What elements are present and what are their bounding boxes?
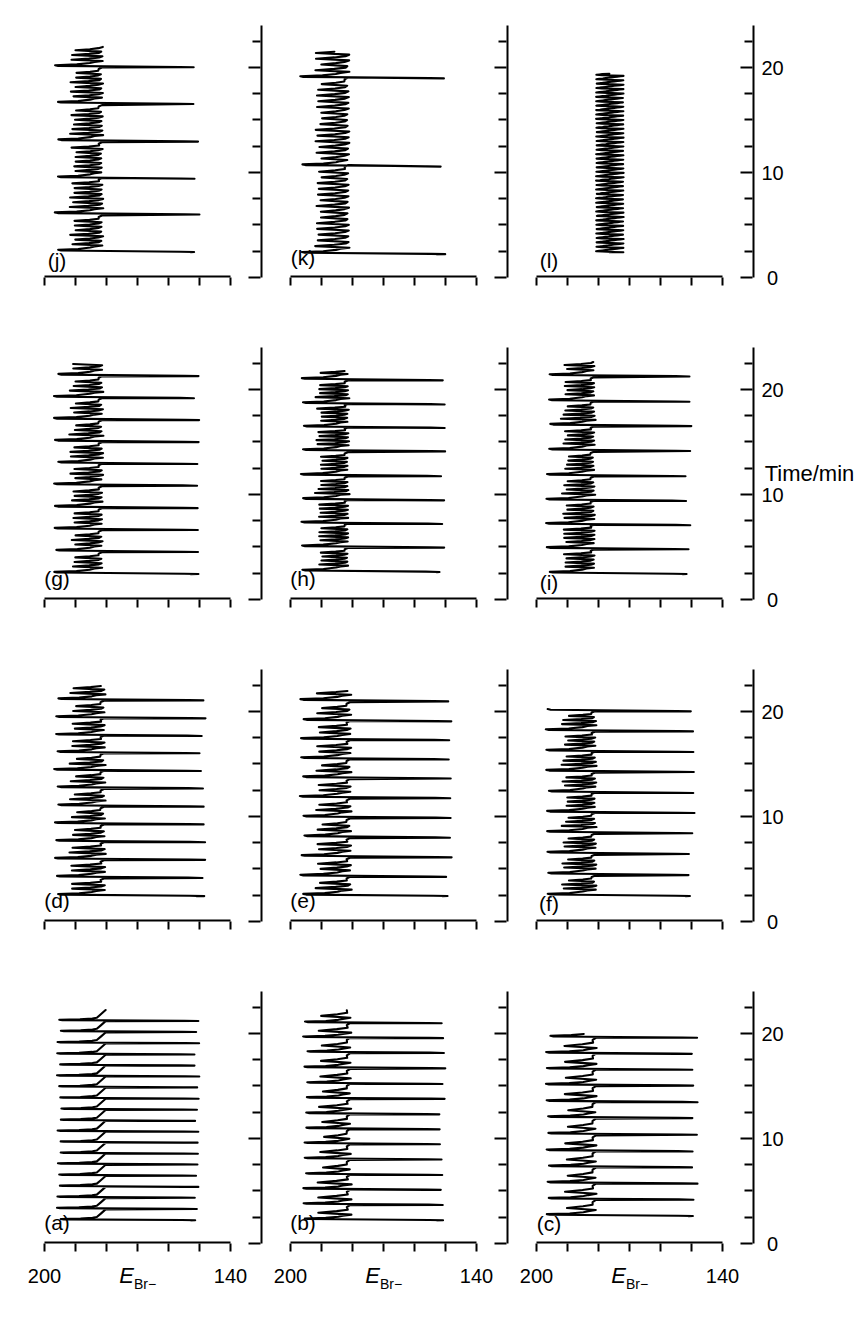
panel-f-label: (f) (539, 893, 559, 914)
panel-k-y-tick (382, 277, 384, 285)
panel-a-x-tick (248, 1032, 260, 1034)
panel-d-x-tick (252, 736, 260, 738)
panel-b-y-tick (475, 1243, 477, 1251)
panel-e-x-axis-line (506, 669, 508, 921)
y-axis-title-main: E (611, 1263, 626, 1288)
panel-h-x-tick (498, 414, 506, 416)
panel-b-x-tick (498, 1216, 506, 1218)
panel-j-x-tick (252, 119, 260, 121)
panel-d-x-tick (252, 868, 260, 870)
panel-e-y-tick (444, 921, 446, 929)
x-tick-label: 0 (752, 1233, 792, 1253)
panel-i-y-tick (721, 599, 723, 607)
panel-d-y-tick (43, 921, 45, 929)
panel-l-x-tick (744, 197, 752, 199)
panel-a-y-tick (167, 1243, 169, 1251)
panel-g-y-tick (136, 599, 138, 607)
panel-i-x-tick (744, 546, 752, 548)
panel-f-y-tick (566, 921, 568, 929)
panel-d-x-tick (252, 894, 260, 896)
panel-c: (c) (536, 991, 722, 1243)
panel-f-y-tick (690, 921, 692, 929)
panel-a-x-tick (252, 1085, 260, 1087)
panel-b-x-axis-line (506, 991, 508, 1243)
panel-g-trace (44, 347, 230, 599)
panel-k-x-tick (494, 66, 506, 68)
panel-f-y-tick (628, 921, 630, 929)
panel-h-x-tick (498, 467, 506, 469)
panel-c-x-tick (744, 1190, 752, 1192)
panel-c-y-tick (628, 1243, 630, 1251)
panel-j-x-tick (252, 145, 260, 147)
panel-g-y-tick (105, 599, 107, 607)
panel-k-y-tick (475, 277, 477, 285)
panel-a-y-tick (74, 1243, 76, 1251)
panel-l-y-tick (659, 277, 661, 285)
panel-j-x-tick (252, 197, 260, 199)
panel-c-y-tick (721, 1243, 723, 1251)
panel-e-y-tick (320, 921, 322, 929)
panel-d-y-tick (229, 921, 231, 929)
panel-l-x-tick (740, 66, 752, 68)
x-tick-label: 0 (752, 911, 792, 931)
panel-l-x-tick (744, 224, 752, 226)
panel-h-y-tick (289, 599, 291, 607)
panel-b-x-tick (494, 1032, 506, 1034)
panel-b-x-tick (498, 1085, 506, 1087)
panel-b-y-tick (382, 1243, 384, 1251)
panel-h-x-tick (498, 572, 506, 574)
panel-i-y-tick (566, 599, 568, 607)
panel-e-x-tick (494, 815, 506, 817)
panel-k-y-tick (351, 277, 353, 285)
panel-g-y-tick (43, 599, 45, 607)
y-tick-label: 200 (24, 1265, 64, 1285)
panel-h: (h) (290, 347, 476, 599)
panel-i-y-tick (659, 599, 661, 607)
panel-k-x-tick (498, 250, 506, 252)
panel-a-x-tick (252, 1163, 260, 1165)
panel-l: (l) (536, 25, 722, 277)
panel-j-y-tick (43, 277, 45, 285)
panel-l-x-tick (744, 250, 752, 252)
panel-k-y-tick (320, 277, 322, 285)
panel-j-x-tick (252, 92, 260, 94)
panel-h-y-tick (444, 599, 446, 607)
panel-f-x-tick (740, 710, 752, 712)
panel-e-label: (e) (290, 890, 316, 911)
panel-d-x-tick (248, 815, 260, 817)
panel-e-x-tick (498, 841, 506, 843)
panel-f-trace (536, 669, 722, 921)
panel-e-trace (290, 669, 476, 921)
panel-e-x-tick (498, 684, 506, 686)
panel-l-label: (l) (539, 249, 558, 270)
y-tick-label: 200 (516, 1265, 556, 1285)
panel-d-x-tick (252, 763, 260, 765)
panel-h-label: (h) (290, 568, 316, 589)
panel-c-x-tick (740, 1242, 752, 1244)
panel-k-x-tick (498, 119, 506, 121)
panel-h-y-tick (351, 599, 353, 607)
panel-b-y-tick (320, 1243, 322, 1251)
panel-f-x-tick (744, 763, 752, 765)
panel-k-y-tick (444, 277, 446, 285)
panel-h-x-tick (494, 598, 506, 600)
panel-g-y-tick (198, 599, 200, 607)
panel-a-y-tick (43, 1243, 45, 1251)
panel-a-x-tick (252, 1190, 260, 1192)
y-tick-label: 200 (270, 1265, 310, 1285)
panel-d-x-tick (252, 841, 260, 843)
panel-e-x-tick (498, 894, 506, 896)
panel-h-y-tick (413, 599, 415, 607)
panel-j-x-tick (252, 40, 260, 42)
panel-c-label: (c) (536, 1212, 561, 1233)
panel-b: (b) (290, 991, 476, 1243)
panel-j-x-tick (248, 276, 260, 278)
panel-l-y-tick (690, 277, 692, 285)
panel-d-y-tick (105, 921, 107, 929)
panel-g-x-tick (252, 362, 260, 364)
panel-c-y-tick (597, 1243, 599, 1251)
panel-d-x-tick (248, 920, 260, 922)
y-axis-title-sub: Br− (625, 1275, 647, 1291)
panel-f-y-tick (597, 921, 599, 929)
panel-h-x-tick (498, 546, 506, 548)
